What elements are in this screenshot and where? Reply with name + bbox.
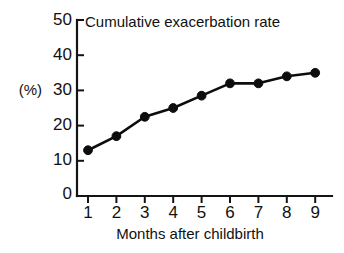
x-tick-label-6: 6 bbox=[225, 203, 234, 222]
data-point-month-3 bbox=[140, 112, 149, 121]
x-tick-label-1: 1 bbox=[83, 203, 92, 222]
y-tick-label-20: 20 bbox=[53, 115, 72, 134]
data-point-month-6 bbox=[226, 79, 235, 88]
x-tick-label-4: 4 bbox=[168, 203, 177, 222]
data-point-month-4 bbox=[169, 104, 178, 113]
x-tick-label-9: 9 bbox=[310, 203, 319, 222]
data-point-month-8 bbox=[282, 72, 291, 81]
x-tick-label-7: 7 bbox=[254, 203, 263, 222]
y-tick-label-0: 0 bbox=[63, 184, 72, 203]
x-axis-title: Months after childbirth bbox=[116, 225, 264, 242]
y-tick-label-10: 10 bbox=[53, 150, 72, 169]
y-axis-unit-label: (%) bbox=[19, 81, 42, 98]
x-tick-label-5: 5 bbox=[197, 203, 206, 222]
chart-canvas: 50 40 30 20 10 0 (%) 1 2 3 4 5 6 7 8 9 bbox=[0, 0, 344, 253]
x-tick-label-2: 2 bbox=[112, 203, 121, 222]
x-tick-label-8: 8 bbox=[282, 203, 291, 222]
y-tick-label-30: 30 bbox=[53, 80, 72, 99]
data-point-month-7 bbox=[254, 79, 263, 88]
chart-title: Cumulative exacerbation rate bbox=[85, 13, 280, 30]
data-point-month-5 bbox=[197, 91, 206, 100]
data-point-month-1 bbox=[84, 146, 93, 155]
y-tick-label-40: 40 bbox=[53, 45, 72, 64]
cumulative-exacerbation-rate-chart: 50 40 30 20 10 0 (%) 1 2 3 4 5 6 7 8 9 bbox=[0, 0, 344, 253]
x-tick-label-3: 3 bbox=[140, 203, 149, 222]
data-point-month-2 bbox=[112, 132, 121, 141]
data-point-month-9 bbox=[311, 68, 320, 77]
y-tick-label-50: 50 bbox=[53, 10, 72, 29]
